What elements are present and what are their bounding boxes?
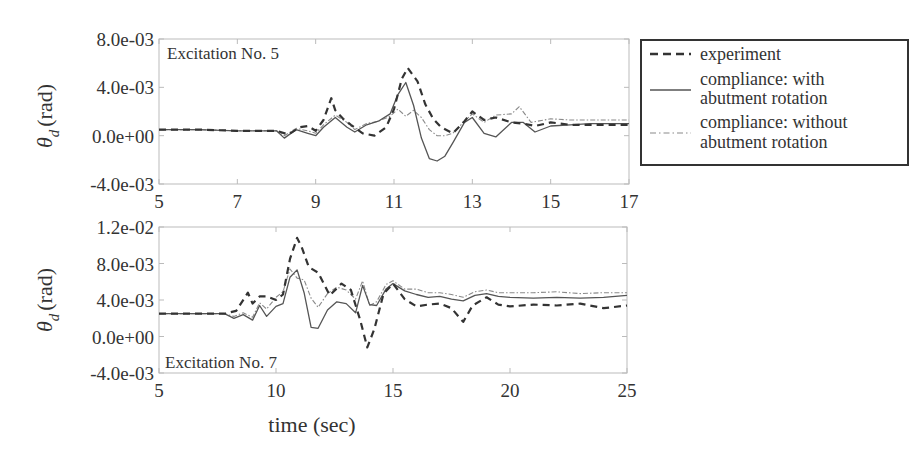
theta-symbol: θ <box>32 137 57 148</box>
theta-symbol: θ <box>32 321 57 332</box>
bottom-series <box>159 238 627 348</box>
y-tick-label: 0.0e+00 <box>92 327 154 348</box>
x-tick-label: 5 <box>154 380 164 401</box>
chart: -4.0e-030.0e+004.0e-038.0e-03 5791113151… <box>0 0 918 460</box>
y-tick-label: 0.0e+00 <box>92 126 154 147</box>
series-line-dashdot <box>159 269 627 317</box>
svg-text:θd(rad): θd(rad) <box>32 84 62 148</box>
top-series <box>159 68 629 161</box>
x-tick-label: 9 <box>311 191 321 212</box>
y-unit: (rad) <box>32 84 57 127</box>
y-tick-label: -4.0e-03 <box>90 363 154 384</box>
legend-label-line2: abutment rotation <box>700 88 827 108</box>
series-line-solid <box>159 270 627 328</box>
legend-label-line2: abutment rotation <box>700 132 827 152</box>
legend-label: compliance: with <box>700 69 824 89</box>
top-panel-annotation: Excitation No. 5 <box>167 44 279 63</box>
y-tick-label: -4.0e-03 <box>90 174 154 195</box>
y-tick-label: 8.0e-03 <box>96 254 154 275</box>
bottom-panel-annotation: Excitation No. 7 <box>165 353 277 372</box>
top-y-axis-title: θd(rad) <box>32 84 62 148</box>
x-tick-label: 15 <box>384 380 403 401</box>
series-line-solid <box>159 83 629 162</box>
x-tick-label: 25 <box>618 380 637 401</box>
theta-subscript: d <box>46 313 62 321</box>
x-tick-label: 13 <box>463 191 482 212</box>
bottom-y-axis-title: θd(rad) <box>32 268 62 332</box>
x-tick-label: 20 <box>501 380 520 401</box>
x-tick-label: 10 <box>267 380 286 401</box>
x-tick-label: 15 <box>541 191 560 212</box>
theta-subscript: d <box>46 129 62 137</box>
bottom-panel: -4.0e-030.0e+004.0e-038.0e-031.2e-02 510… <box>32 217 637 437</box>
legend: experiment compliance: with abutment rot… <box>641 40 908 165</box>
top-panel: -4.0e-030.0e+004.0e-038.0e-03 5791113151… <box>32 29 639 212</box>
legend-label: compliance: without <box>700 112 847 132</box>
y-tick-label: 4.0e-03 <box>96 77 154 98</box>
legend-label: experiment <box>700 44 781 64</box>
y-tick-label: 1.2e-02 <box>96 217 154 238</box>
x-tick-label: 5 <box>154 191 164 212</box>
x-axis-title: time (sec) <box>268 412 355 437</box>
x-tick-label: 7 <box>233 191 243 212</box>
y-tick-label: 4.0e-03 <box>96 290 154 311</box>
series-line-dashed <box>159 238 627 348</box>
y-unit: (rad) <box>32 268 57 311</box>
y-tick-label: 8.0e-03 <box>96 29 154 50</box>
x-tick-label: 17 <box>620 191 639 212</box>
svg-text:θd(rad): θd(rad) <box>32 268 62 332</box>
x-tick-label: 11 <box>385 191 403 212</box>
bottom-plot-frame <box>159 227 627 373</box>
